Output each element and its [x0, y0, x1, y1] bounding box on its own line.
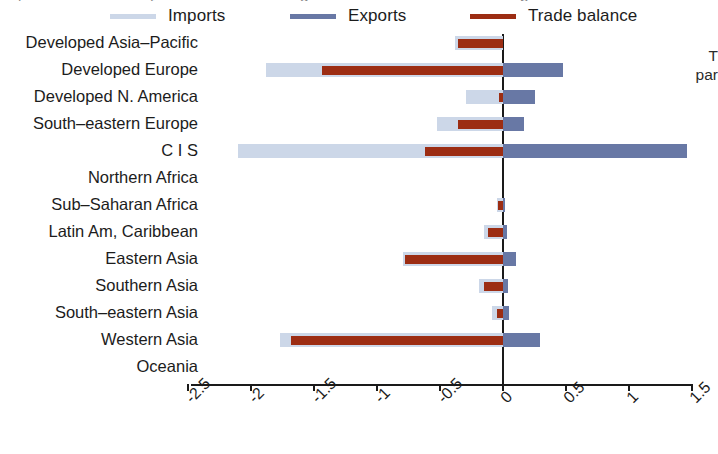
legend-item-exports[interactable]: Exports	[290, 6, 406, 26]
bar-exports	[503, 279, 508, 293]
legend-item-imports[interactable]: Imports	[110, 6, 225, 26]
bar-exports	[503, 198, 505, 212]
legend-label-exports: Exports	[348, 6, 406, 26]
bar-trade-balance	[425, 147, 503, 156]
bar-exports	[503, 333, 540, 347]
bar-exports	[503, 63, 563, 77]
x-axis-tick-label: 0	[497, 388, 516, 407]
x-axis: -2.5-2-1.5-1-0.500.511.5	[0, 384, 714, 454]
legend-label-trade-balance: Trade balance	[528, 6, 637, 26]
bar-trade-balance	[499, 93, 503, 102]
clipped-right-caption-line2: par	[682, 65, 718, 84]
bar-trade-balance	[497, 309, 503, 318]
bar-exports	[503, 225, 507, 239]
clipped-top-text-d: b	[520, 0, 528, 1]
legend-swatch-trade-balance-icon	[470, 14, 516, 19]
clipped-right-caption-line1: T	[682, 46, 718, 65]
legend-item-trade-balance[interactable]: Trade balance	[470, 6, 637, 26]
legend-swatch-exports-icon	[290, 14, 336, 19]
x-axis-tick-label: -2	[245, 384, 268, 407]
chart-legend: Imports Exports Trade balance	[0, 6, 714, 32]
x-axis-tick-label: 1	[623, 388, 642, 407]
clipped-top-text-c: g	[300, 0, 308, 1]
bar-trade-balance	[458, 39, 503, 48]
clipped-top-text-a: l	[18, 0, 21, 1]
clipped-top-text-b: t	[150, 0, 154, 1]
bar-exports	[503, 306, 509, 320]
bar-exports	[503, 90, 535, 104]
x-axis-tick-label: -1	[371, 384, 394, 407]
bar-trade-balance	[405, 255, 503, 264]
legend-label-imports: Imports	[168, 6, 225, 26]
clipped-right-caption: T par	[682, 46, 718, 94]
bar-trade-balance	[322, 66, 503, 75]
bar-trade-balance	[498, 201, 503, 210]
bar-trade-balance	[484, 282, 503, 291]
bar-exports	[503, 252, 516, 266]
bar-trade-balance	[458, 120, 503, 129]
bar-trade-balance	[291, 336, 503, 345]
bar-exports	[503, 117, 524, 131]
clipped-top-text: l t g b	[0, 0, 714, 1]
legend-swatch-imports-icon	[110, 14, 156, 19]
bar-imports	[466, 90, 503, 104]
plot-area: Developed Asia–PacificDeveloped EuropeDe…	[0, 32, 714, 390]
bar-trade-balance	[488, 228, 503, 237]
bar-exports	[503, 144, 687, 158]
bars-container	[0, 32, 714, 390]
